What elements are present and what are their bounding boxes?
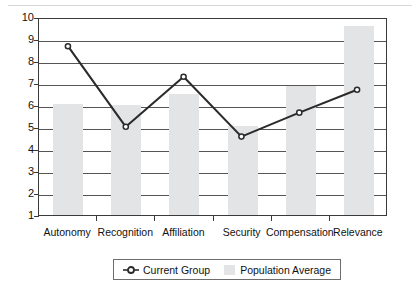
data-point-marker	[354, 87, 359, 92]
x-axis-tick-label: Affiliation	[162, 225, 204, 239]
plot-area	[38, 18, 387, 216]
chart-legend: Current Group Population Average	[113, 259, 341, 280]
x-axis-labels: AutonomyRecognitionAffiliationSecurityCo…	[38, 225, 387, 243]
data-point-marker	[181, 74, 186, 79]
x-axis-tick-mark	[154, 216, 155, 221]
x-axis-tick-mark	[271, 216, 272, 221]
legend-label-population-average: Population Average	[240, 264, 331, 276]
current-group-markers	[65, 44, 359, 140]
legend-item-population-average: Population Average	[224, 264, 331, 276]
x-axis-tick-label: Compensation	[266, 225, 334, 239]
x-axis-tick-label: Recognition	[98, 225, 153, 239]
x-axis-tick-label: Autonomy	[43, 225, 90, 239]
chart-figure: 12345678910 AutonomyRecognitionAffiliati…	[0, 0, 420, 288]
data-point-marker	[65, 44, 70, 49]
data-point-marker	[123, 124, 128, 129]
line-series-current-group	[39, 19, 386, 215]
data-point-marker	[239, 134, 244, 139]
legend-item-current-group: Current Group	[123, 264, 210, 276]
current-group-line	[68, 46, 357, 136]
data-point-marker	[297, 110, 302, 115]
x-axis-tick-mark	[213, 216, 214, 221]
top-divider-rule	[8, 5, 412, 6]
x-axis-tick-label: Relevance	[333, 225, 383, 239]
x-axis-tick-label: Security	[223, 225, 261, 239]
legend-label-current-group: Current Group	[143, 264, 210, 276]
line-marker-icon	[123, 265, 139, 275]
x-axis-tick-mark	[329, 216, 330, 221]
bar-swatch-icon	[224, 265, 235, 275]
x-axis-ticks	[38, 216, 387, 222]
x-axis-tick-mark	[96, 216, 97, 221]
y-axis-ticks	[8, 18, 39, 216]
